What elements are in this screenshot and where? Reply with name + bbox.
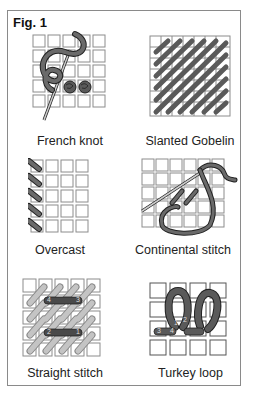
caption-slanted-gobelin: Slanted Gobelin xyxy=(140,134,240,148)
slanted-gobelin-diagram xyxy=(148,34,233,119)
loop-label-4: 4 xyxy=(170,327,174,334)
overcast-diagram xyxy=(28,158,98,238)
loop-label-3: 3 xyxy=(157,327,161,334)
loop-label-2: 2 xyxy=(183,316,187,323)
straight-stitch-diagram: 4 3 2 1 xyxy=(20,277,110,362)
caption-overcast: Overcast xyxy=(25,243,95,257)
french-knot-diagram xyxy=(30,30,110,130)
stitch-label-3: 3 xyxy=(76,296,80,303)
figure-title: Fig. 1 xyxy=(13,15,47,30)
continental-stitch-diagram xyxy=(140,155,240,240)
stitch-label-1: 1 xyxy=(76,328,80,335)
caption-continental-stitch: Continental stitch xyxy=(128,243,238,257)
caption-straight-stitch: Straight stitch xyxy=(20,366,110,380)
stitch-label-2: 2 xyxy=(47,328,51,335)
loop-label-1: 1 xyxy=(174,319,178,326)
caption-turkey-loop: Turkey loop xyxy=(148,366,233,380)
stitch-label-4: 4 xyxy=(47,296,51,303)
caption-french-knot: French knot xyxy=(30,134,110,148)
turkey-loop-diagram: 1 2 3 4 xyxy=(148,281,233,361)
